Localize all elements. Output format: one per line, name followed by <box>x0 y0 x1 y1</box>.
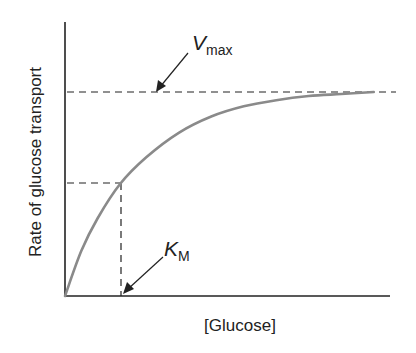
saturation-chart: Vmax KM [Glucose] Rate of glucose transp… <box>0 0 416 353</box>
y-axis-label: Rate of glucose transport <box>26 67 45 257</box>
vmax-label: Vmax <box>192 31 232 58</box>
km-label: KM <box>164 237 190 264</box>
km-arrow-icon <box>123 257 163 294</box>
vmax-arrow-icon <box>156 53 188 92</box>
transport-rate-curve <box>65 92 374 296</box>
x-axis-label: [Glucose] <box>204 316 276 335</box>
